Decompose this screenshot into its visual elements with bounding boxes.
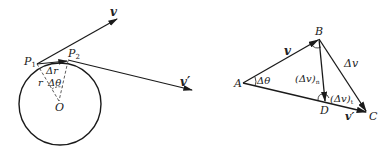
label-delta-theta-left: Δθ: [47, 77, 61, 88]
label-d: D: [319, 104, 329, 117]
angle-arc-d: [318, 94, 329, 100]
label-v-prime-right: v′: [345, 110, 354, 123]
label-b: B: [314, 25, 323, 38]
label-p1: P1: [23, 55, 36, 69]
label-c: C: [369, 110, 378, 123]
label-delta-v-t: (Δv)t: [330, 93, 354, 105]
velocity-v-prime-arrow: [68, 60, 192, 90]
label-a: A: [233, 77, 242, 90]
label-r: r: [38, 77, 44, 88]
label-delta-v-n: (Δv)n: [295, 73, 320, 85]
label-delta-r: Δr: [45, 65, 59, 76]
label-delta-v: Δv: [343, 57, 359, 70]
label-v: v: [110, 5, 118, 19]
diagram-canvas: v v′ P1 P2 Δr r Δθ O A B C D v v′ Δv Δθ …: [0, 0, 391, 146]
left-figure: v v′ P1 P2 Δr r Δθ O: [19, 5, 192, 145]
angle-arc-a: [255, 77, 256, 86]
label-v-right: v: [284, 44, 292, 58]
right-figure: A B C D v v′ Δv Δθ (Δv)n (Δv)t: [233, 25, 378, 123]
vector-bd: [319, 39, 325, 101]
label-v-prime: v′: [180, 75, 191, 89]
label-delta-theta-right: Δθ: [256, 75, 270, 86]
label-p2: P2: [67, 47, 80, 61]
label-o: O: [55, 101, 64, 114]
